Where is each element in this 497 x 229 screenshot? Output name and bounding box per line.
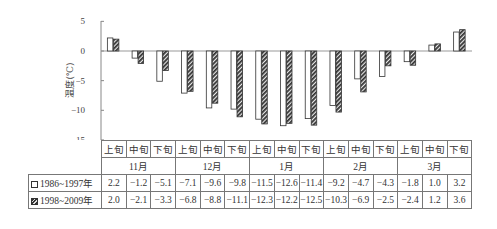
value-cell: 2.0 xyxy=(102,192,127,209)
value-cell: −4.7 xyxy=(348,175,373,192)
period-cell: 上旬 xyxy=(324,141,349,158)
period-cell: 下旬 xyxy=(447,141,472,158)
bar-1998-2009 xyxy=(262,51,268,124)
value-cell: −9.8 xyxy=(225,175,250,192)
bar-1998-2009 xyxy=(385,51,391,66)
bar-1998-2009 xyxy=(287,51,293,123)
bar-1986-1997 xyxy=(132,51,138,58)
bar-1986-1997 xyxy=(404,51,410,62)
y-tick-label: 5 xyxy=(81,16,86,26)
bar-1986-1997 xyxy=(231,51,237,109)
month-cell: 2月 xyxy=(324,158,398,175)
value-cell: −12.3 xyxy=(250,192,275,209)
period-cell: 中旬 xyxy=(200,141,225,158)
bar-1986-1997 xyxy=(379,51,385,76)
value-cell: −12.2 xyxy=(274,192,299,209)
y-tick-label: −5 xyxy=(75,76,85,86)
value-cell: 1.0 xyxy=(422,175,447,192)
bar-1998-2009 xyxy=(336,51,342,112)
value-cell: −1.8 xyxy=(398,175,423,192)
period-cell: 上旬 xyxy=(176,141,201,158)
period-cell: 下旬 xyxy=(299,141,324,158)
period-cell: 下旬 xyxy=(225,141,250,158)
value-cell: −2.1 xyxy=(126,192,151,209)
value-cell: −11.4 xyxy=(299,175,324,192)
bar-1998-2009 xyxy=(163,51,169,71)
bar-1986-1997 xyxy=(281,51,287,126)
bars xyxy=(107,30,465,126)
bar-1986-1997 xyxy=(454,32,460,51)
value-cell: −11.5 xyxy=(250,175,275,192)
month-row: 11月12月1月2月3月 xyxy=(29,158,472,175)
value-cell: −12.5 xyxy=(299,192,324,209)
value-cell: −6.9 xyxy=(348,192,373,209)
bar-1998-2009 xyxy=(188,51,194,91)
data-table: 上旬中旬下旬上旬中旬下旬上旬中旬下旬上旬中旬下旬上旬中旬下旬 11月12月1月2… xyxy=(28,140,472,209)
series-row-1986-1997: 1986~1997年 2.2−1.2−5.1−7.1−9.6−9.8−11.5−… xyxy=(29,175,472,192)
y-axis: 50−5−10−15 xyxy=(71,16,472,140)
value-cell: 3.6 xyxy=(447,192,472,209)
bar-1986-1997 xyxy=(206,51,212,108)
legend-1986-1997: 1986~1997年 xyxy=(29,175,102,192)
value-cell: 3.2 xyxy=(447,175,472,192)
period-cell: 中旬 xyxy=(274,141,299,158)
value-cell: −2.5 xyxy=(373,192,398,209)
value-cell: −4.3 xyxy=(373,175,398,192)
value-cell: −6.8 xyxy=(176,192,201,209)
series-row-1998-2009: 1998~2009年 2.0−2.1−3.3−6.8−8.8−11.1−12.3… xyxy=(29,192,472,209)
bar-1998-2009 xyxy=(460,30,466,51)
period-cell: 中旬 xyxy=(348,141,373,158)
bar-1986-1997 xyxy=(107,38,113,51)
value-cell: 2.2 xyxy=(102,175,127,192)
hatched-swatch-icon xyxy=(31,198,38,205)
bar-1998-2009 xyxy=(138,51,144,63)
bar-1986-1997 xyxy=(305,51,311,119)
period-cell: 上旬 xyxy=(398,141,423,158)
bar-1998-2009 xyxy=(410,51,416,65)
bar-1986-1997 xyxy=(182,51,188,93)
y-tick-label: 0 xyxy=(81,46,86,56)
legend-1998-2009: 1998~2009年 xyxy=(29,192,102,209)
y-axis-label: 温度(℃) xyxy=(64,62,75,97)
value-cell: −2.4 xyxy=(398,192,423,209)
value-cell: −3.3 xyxy=(151,192,176,209)
bar-1986-1997 xyxy=(157,51,163,81)
month-cell: 3月 xyxy=(398,158,472,175)
bar-1986-1997 xyxy=(355,51,361,79)
value-cell: −12.6 xyxy=(274,175,299,192)
y-tick-label: −10 xyxy=(71,105,86,115)
period-row: 上旬中旬下旬上旬中旬下旬上旬中旬下旬上旬中旬下旬上旬中旬下旬 xyxy=(29,141,472,158)
value-cell: −8.8 xyxy=(200,192,225,209)
white-swatch-icon xyxy=(31,181,38,188)
bar-1986-1997 xyxy=(256,51,262,119)
bar-1998-2009 xyxy=(435,44,441,51)
bar-1998-2009 xyxy=(361,51,367,92)
period-cell: 下旬 xyxy=(151,141,176,158)
month-cell: 1月 xyxy=(250,158,324,175)
month-cell: 11月 xyxy=(102,158,176,175)
value-cell: −1.2 xyxy=(126,175,151,192)
value-cell: −5.1 xyxy=(151,175,176,192)
bar-1998-2009 xyxy=(113,39,119,51)
value-cell: −7.1 xyxy=(176,175,201,192)
value-cell: −9.2 xyxy=(324,175,349,192)
month-cell: 12月 xyxy=(176,158,250,175)
period-cell: 下旬 xyxy=(373,141,398,158)
value-cell: 1.2 xyxy=(422,192,447,209)
bar-1986-1997 xyxy=(429,45,435,51)
bar-1998-2009 xyxy=(212,51,218,103)
bar-1986-1997 xyxy=(330,51,336,106)
period-cell: 上旬 xyxy=(250,141,275,158)
bar-1998-2009 xyxy=(311,51,317,125)
value-cell: −10.3 xyxy=(324,192,349,209)
period-cell: 中旬 xyxy=(126,141,151,158)
period-cell: 中旬 xyxy=(422,141,447,158)
value-cell: −9.6 xyxy=(200,175,225,192)
bar-1998-2009 xyxy=(237,51,243,117)
bar-chart: 50−5−10−15 温度(℃) xyxy=(0,0,497,140)
period-cell: 上旬 xyxy=(102,141,127,158)
value-cell: −11.1 xyxy=(225,192,250,209)
